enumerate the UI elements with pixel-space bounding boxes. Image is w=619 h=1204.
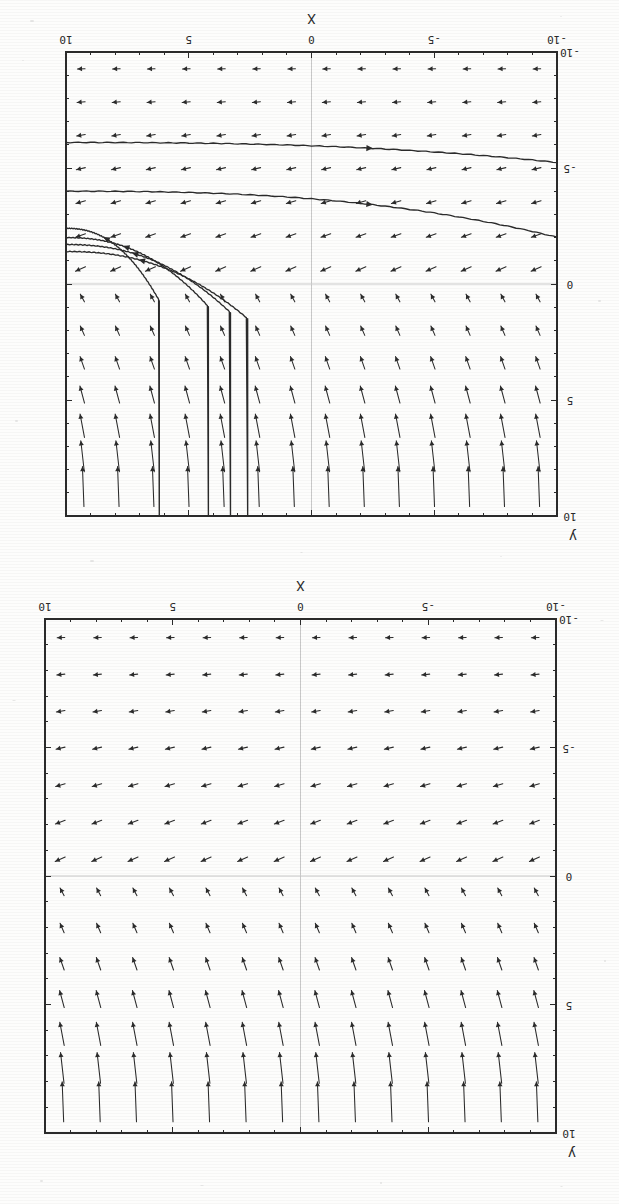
field-arrow <box>465 441 470 472</box>
field-arrow-head <box>385 709 390 714</box>
field-arrow <box>147 66 155 71</box>
field-arrow-head <box>111 166 116 171</box>
field-arrow-shaft <box>316 1052 319 1083</box>
field-arrow-head <box>392 100 397 105</box>
field-arrow-head <box>531 635 536 640</box>
field-arrow <box>496 1052 501 1083</box>
field-arrow <box>458 709 467 714</box>
field-arrow <box>253 66 261 71</box>
field-arrow <box>238 820 248 825</box>
field-arrow-head <box>131 1022 136 1027</box>
field-arrow <box>423 990 429 1007</box>
field-arrow <box>461 923 466 932</box>
field-arrow-head <box>114 414 119 419</box>
field-arrow-shaft <box>208 1082 210 1122</box>
scan-speck <box>560 1186 563 1187</box>
field-arrow <box>92 857 102 862</box>
field-arrow-head <box>462 166 467 171</box>
field-arrow <box>114 386 120 403</box>
field-arrow <box>421 783 430 788</box>
field-arrow <box>96 923 101 932</box>
y-tick-label: -5 <box>562 742 575 755</box>
field-arrow-shaft <box>425 1052 428 1083</box>
field-arrow-head <box>421 746 426 751</box>
field-arrow-head <box>530 783 535 788</box>
field-arrow <box>59 1052 64 1083</box>
field-arrow <box>394 386 400 403</box>
field-arrow <box>80 466 85 506</box>
field-arrow <box>425 888 429 896</box>
field-arrow-head <box>393 66 398 71</box>
field-arrow-head <box>533 66 538 71</box>
field-arrow-head <box>130 672 135 677</box>
field-arrow <box>498 66 506 71</box>
field-arrow <box>168 1052 173 1083</box>
field-arrow <box>359 386 365 403</box>
field-arrow <box>133 1082 138 1122</box>
field-arrow-head <box>349 672 354 677</box>
field-arrow <box>291 294 295 302</box>
field-arrow <box>216 200 225 205</box>
field-arrow <box>530 820 540 825</box>
field-arrow <box>325 326 330 335</box>
field-arrow-head <box>276 672 281 677</box>
field-arrow <box>277 990 283 1007</box>
field-arrow-head <box>287 166 292 171</box>
axis-title-y: y <box>569 529 577 545</box>
field-arrow-head <box>350 990 355 995</box>
field-arrow <box>347 783 356 788</box>
field-arrow <box>501 294 505 302</box>
field-arrow-shaft <box>62 1082 64 1122</box>
field-arrow-head <box>202 746 207 751</box>
field-arrow-head <box>238 783 243 788</box>
field-arrow-head <box>203 635 208 640</box>
field-arrow <box>238 746 247 751</box>
field-arrow <box>165 857 175 862</box>
field-arrow-shaft <box>398 466 400 506</box>
field-arrow <box>457 746 466 751</box>
field-arrow <box>286 200 295 205</box>
field-arrow <box>219 441 224 472</box>
field-arrow-head <box>147 100 152 105</box>
field-arrow <box>357 100 365 105</box>
field-arrow-shaft <box>97 1052 100 1083</box>
field-arrow-head <box>76 166 81 171</box>
field-arrow <box>168 990 174 1007</box>
field-arrow-head <box>129 709 134 714</box>
field-arrow-head <box>202 709 207 714</box>
field-arrow <box>428 66 436 71</box>
field-arrow <box>145 267 155 272</box>
field-arrow-head <box>392 133 397 138</box>
field-arrow-shaft <box>462 1052 465 1083</box>
x-tick-label: 5 <box>169 600 176 613</box>
field-arrow <box>388 888 392 896</box>
field-arrow <box>359 441 364 472</box>
field-arrow-head <box>181 166 186 171</box>
field-arrow <box>241 990 247 1007</box>
field-arrow-shaft <box>503 466 505 506</box>
field-arrow-head <box>287 133 292 138</box>
field-arrow <box>461 1082 466 1122</box>
field-arrow <box>392 100 400 105</box>
field-arrow-head <box>533 100 538 105</box>
field-arrow-head <box>322 100 327 105</box>
field-arrow-shaft <box>352 1052 355 1083</box>
field-arrow-head <box>532 166 537 171</box>
field-arrow-head <box>311 783 316 788</box>
field-arrow <box>289 414 295 437</box>
tick-labels-bottom: 1050-5-10-10-50510 <box>38 600 579 1140</box>
field-arrow <box>111 200 120 205</box>
field-arrow <box>361 294 365 302</box>
field-arrow-head <box>241 1022 246 1027</box>
field-arrow <box>185 294 189 302</box>
field-arrow-head <box>463 100 468 105</box>
field-arrow <box>315 888 319 896</box>
field-arrow <box>498 100 506 105</box>
field-arrow <box>358 66 366 71</box>
field-arrow <box>496 1022 502 1045</box>
field-arrow <box>287 133 296 138</box>
y-tick-label: -5 <box>563 162 576 175</box>
field-arrow-head <box>289 414 294 419</box>
field-arrow <box>132 958 137 970</box>
field-arrow-shaft <box>363 466 365 506</box>
